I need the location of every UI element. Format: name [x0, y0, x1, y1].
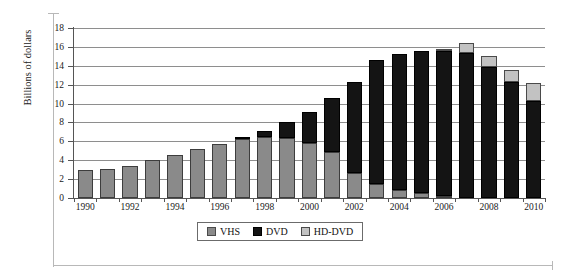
bar-segment-dvd	[302, 112, 317, 143]
x-tick-label: 2004	[379, 202, 419, 213]
y-tick-label: 10	[42, 99, 64, 109]
plot-area	[74, 28, 545, 198]
bar-group	[122, 28, 137, 198]
bar-segment-dvd	[392, 54, 407, 190]
x-tick-label: 2006	[424, 202, 464, 213]
bar-segment-vhs	[369, 184, 384, 198]
y-tick-label: 6	[42, 136, 64, 146]
bar-group	[78, 28, 93, 198]
x-tick-mark	[253, 198, 254, 202]
x-axis-line	[73, 198, 545, 199]
y-tick-label: 8	[42, 117, 64, 127]
bar-group	[257, 28, 272, 198]
legend-item-hd-dvd: HD-DVD	[301, 226, 353, 237]
x-tick-mark	[523, 198, 524, 202]
bar-segment-vhs	[190, 149, 205, 198]
bar-segment-hd-dvd	[481, 56, 496, 66]
bar-segment-vhs	[302, 143, 317, 198]
bar-segment-dvd	[369, 60, 384, 184]
page-rule-vertical-cap	[48, 13, 59, 14]
bar-segment-vhs	[324, 152, 339, 198]
bar-segment-vhs	[257, 137, 272, 198]
y-tick-label: 0	[42, 193, 64, 203]
legend-item-dvd: DVD	[253, 226, 288, 237]
y-tick-label: 2	[42, 174, 64, 184]
bar-segment-dvd	[526, 101, 541, 198]
x-tick-mark	[119, 198, 120, 202]
bar-group	[369, 28, 384, 198]
bar-segment-vhs	[235, 139, 250, 198]
bar-group	[481, 28, 496, 198]
bar-segment-vhs	[145, 160, 160, 198]
bar-group	[100, 28, 115, 198]
bar-segment-vhs	[100, 169, 115, 198]
bar-segment-dvd	[324, 98, 339, 152]
chart-legend: VHS DVD HD-DVD	[197, 222, 363, 241]
bar-segment-dvd	[414, 51, 429, 194]
x-tick-mark	[433, 198, 434, 202]
bar-segment-vhs	[347, 173, 362, 198]
y-tick-label: 4	[42, 155, 64, 165]
y-tick-label: 12	[42, 80, 64, 90]
bar-segment-hd-dvd	[504, 70, 519, 82]
bar-segment-dvd	[459, 53, 474, 198]
bar-group	[436, 28, 451, 198]
bar-segment-vhs	[414, 193, 429, 198]
legend-swatch-vhs	[207, 227, 216, 236]
bar-group	[235, 28, 250, 198]
bar-segment-dvd	[347, 82, 362, 174]
bar-segment-dvd	[235, 137, 250, 140]
legend-swatch-hd-dvd	[301, 227, 310, 236]
legend-label-dvd: DVD	[266, 226, 288, 237]
x-tick-mark	[209, 198, 210, 202]
bar-group	[392, 28, 407, 198]
bar-group	[167, 28, 182, 198]
chart-figure: Billions of dollars 024681012141618 1990…	[0, 0, 565, 277]
bar-group	[279, 28, 294, 198]
bar-segment-vhs	[392, 190, 407, 199]
bar-segment-dvd	[436, 51, 451, 196]
bar-group	[504, 28, 519, 198]
x-tick-mark	[321, 198, 322, 202]
x-tick-label: 2002	[334, 202, 374, 213]
bar-segment-vhs	[167, 155, 182, 198]
bar-group	[414, 28, 429, 198]
x-tick-mark	[478, 198, 479, 202]
legend-item-vhs: VHS	[207, 226, 240, 237]
x-tick-label: 2010	[514, 202, 554, 213]
x-tick-label: 2000	[290, 202, 330, 213]
x-tick-label: 1996	[200, 202, 240, 213]
bar-group	[212, 28, 227, 198]
bar-segment-vhs	[122, 166, 137, 198]
page-rule-horizontal	[53, 265, 553, 266]
x-tick-mark	[410, 198, 411, 202]
legend-swatch-dvd	[253, 227, 262, 236]
bar-segment-dvd	[279, 122, 294, 137]
bar-group	[190, 28, 205, 198]
bar-segment-hd-dvd	[459, 43, 474, 52]
bar-segment-dvd	[257, 131, 272, 137]
bar-segment-vhs	[436, 196, 451, 198]
legend-label-vhs: VHS	[220, 226, 240, 237]
bar-segment-vhs	[78, 170, 93, 198]
bar-group	[459, 28, 474, 198]
bar-segment-vhs	[212, 144, 227, 198]
bar-segment-hd-dvd	[436, 49, 451, 51]
bar-segment-dvd	[481, 67, 496, 198]
bar-group	[526, 28, 541, 198]
x-tick-mark	[343, 198, 344, 202]
x-tick-mark	[164, 198, 165, 202]
x-tick-mark	[500, 198, 501, 202]
bar-group	[324, 28, 339, 198]
x-tick-mark	[186, 198, 187, 202]
y-tick-label: 16	[42, 42, 64, 52]
y-axis-title: Billions of dollars	[22, 0, 33, 143]
x-tick-mark	[141, 198, 142, 202]
x-tick-mark	[276, 198, 277, 202]
x-tick-mark	[388, 198, 389, 202]
x-tick-label: 1992	[110, 202, 150, 213]
x-tick-mark	[298, 198, 299, 202]
x-tick-mark	[74, 198, 75, 202]
legend-label-hd-dvd: HD-DVD	[314, 226, 353, 237]
x-tick-mark	[455, 198, 456, 202]
